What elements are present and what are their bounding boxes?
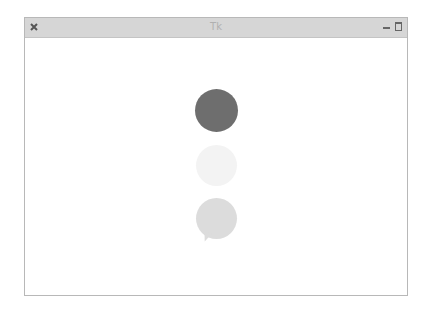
minimize-button[interactable] xyxy=(383,27,390,29)
dark-gray-circle xyxy=(195,89,238,132)
window-title: Tk xyxy=(25,21,407,32)
title-bar[interactable]: Tk xyxy=(25,18,407,38)
speech-bubble-circle xyxy=(196,198,237,239)
light-gray-circle xyxy=(196,145,237,186)
canvas-area[interactable] xyxy=(25,38,407,295)
speech-bubble-tail xyxy=(202,231,212,243)
maximize-button[interactable] xyxy=(395,22,402,31)
app-window: Tk xyxy=(24,17,408,296)
